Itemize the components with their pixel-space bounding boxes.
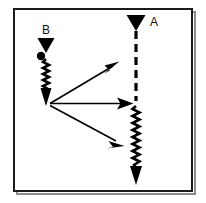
figure-border [14, 9, 192, 191]
physics-interaction-diagram: B A [0, 0, 206, 203]
node-label-b: B [42, 23, 50, 37]
node-label-a: A [150, 15, 158, 29]
event-dot [37, 52, 45, 60]
figure-container: B A [0, 0, 206, 203]
